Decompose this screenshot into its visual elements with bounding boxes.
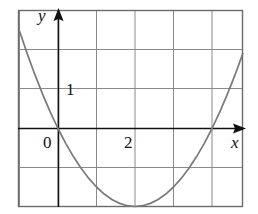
x-axis-label: x [231, 134, 239, 151]
y-tick-label-1: 1 [66, 81, 75, 98]
x-tick-label-2: 2 [124, 134, 133, 151]
parabola-plot [0, 0, 258, 214]
graph-figure: y x 0 1 2 [0, 0, 258, 214]
plot-background [18, 10, 243, 207]
origin-label: 0 [43, 134, 52, 151]
y-axis-label: y [38, 7, 46, 24]
